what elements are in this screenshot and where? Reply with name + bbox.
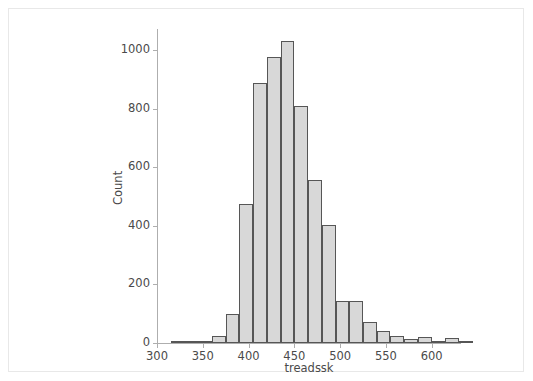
histogram-bar bbox=[322, 225, 336, 343]
histogram-bar bbox=[459, 341, 473, 343]
y-tick-label: 0 bbox=[143, 337, 150, 349]
histogram-bar bbox=[445, 338, 459, 343]
y-axis-spine bbox=[157, 29, 158, 343]
histogram-bar bbox=[226, 314, 240, 343]
x-tick-mark bbox=[340, 344, 341, 348]
histogram-bar bbox=[363, 322, 377, 343]
histogram-bar bbox=[253, 83, 267, 343]
histogram-bar bbox=[184, 341, 198, 343]
histogram-bar bbox=[171, 341, 185, 343]
x-tick-mark bbox=[432, 344, 433, 348]
y-tick-label: 1000 bbox=[121, 44, 150, 56]
histogram-bar bbox=[281, 41, 295, 343]
figure-frame: 02004006008001000 300350400450500550600 … bbox=[8, 8, 524, 372]
histogram-bar bbox=[404, 339, 418, 343]
y-axis-label: Count bbox=[111, 171, 125, 205]
histogram-bar bbox=[390, 336, 404, 343]
y-tick-label: 200 bbox=[128, 279, 150, 291]
histogram-bar bbox=[418, 337, 432, 343]
x-tick-mark bbox=[203, 344, 204, 348]
y-tick-label: 600 bbox=[128, 162, 150, 174]
histogram-bar bbox=[294, 106, 308, 343]
y-tick-label: 400 bbox=[128, 220, 150, 232]
x-tick-mark bbox=[294, 344, 295, 348]
x-tick-mark bbox=[249, 344, 250, 348]
histogram-bar bbox=[267, 57, 281, 343]
x-tick-mark bbox=[157, 344, 158, 348]
histogram-bar bbox=[239, 204, 253, 343]
histogram-bar bbox=[432, 341, 446, 343]
histogram-bar bbox=[212, 336, 226, 343]
histogram-bar bbox=[336, 301, 350, 343]
histogram-bar bbox=[308, 180, 322, 343]
y-axis: 02004006008001000 bbox=[9, 29, 157, 344]
plot-area bbox=[157, 29, 461, 343]
histogram-bar bbox=[377, 331, 391, 343]
x-tick-mark bbox=[386, 344, 387, 348]
x-axis-spine bbox=[157, 343, 461, 344]
histogram-bar bbox=[198, 341, 212, 343]
histogram-bar bbox=[349, 301, 363, 343]
x-axis-label: treadssk bbox=[157, 361, 461, 375]
y-tick-label: 800 bbox=[128, 103, 150, 115]
